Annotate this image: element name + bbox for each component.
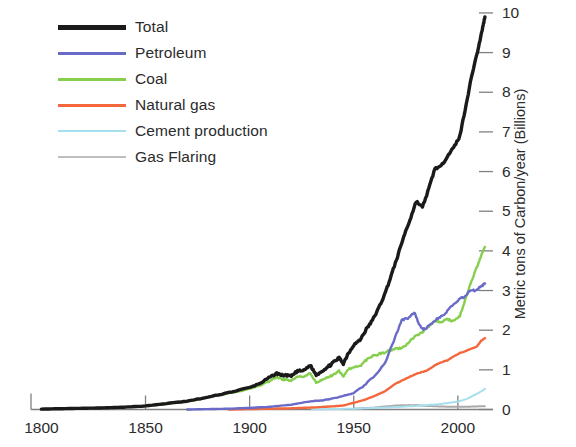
legend-swatch-icon [58,25,126,30]
legend-item-label: Petroleum [135,45,207,61]
legend-swatch-icon [58,78,126,81]
legend-swatch-icon [58,104,126,107]
legend-item-total[interactable]: Total [58,14,318,40]
legend-item-petroleum[interactable]: Petroleum [58,40,318,66]
legend-item-label: Natural gas [135,97,215,113]
legend-item-cement-production[interactable]: Cement production [58,118,318,144]
x-tick-label: 1900 [220,419,280,437]
emissions-chart-figure: TotalPetroleumCoalNatural gasCement prod… [0,0,576,447]
legend-swatch-icon [58,156,126,158]
legend-swatch-icon [58,52,126,55]
legend-item-label: Gas Flaring [135,149,216,165]
series-line-coal [41,247,485,409]
y-axis-title: Metric tons of Carbon/year (Billions) [512,54,528,354]
legend-item-label: Cement production [135,123,268,139]
legend-item-gas-flaring[interactable]: Gas Flaring [58,144,318,170]
y-tick-label: 0 [502,401,528,419]
series-line-natural-gas [229,338,485,409]
x-tick-label: 2000 [428,419,488,437]
legend-item-natural-gas[interactable]: Natural gas [58,92,318,118]
legend-item-coal[interactable]: Coal [58,66,318,92]
y-tick-label: 10 [502,4,528,22]
legend-item-label: Coal [135,71,167,87]
x-tick-label: 1950 [324,419,384,437]
x-tick-label: 1850 [116,419,176,437]
legend-item-label: Total [135,19,168,35]
x-tick-label: 1800 [11,419,71,437]
legend-swatch-icon [58,130,126,132]
chart-legend: TotalPetroleumCoalNatural gasCement prod… [58,14,318,170]
y-tick-label: 1 [502,361,528,379]
